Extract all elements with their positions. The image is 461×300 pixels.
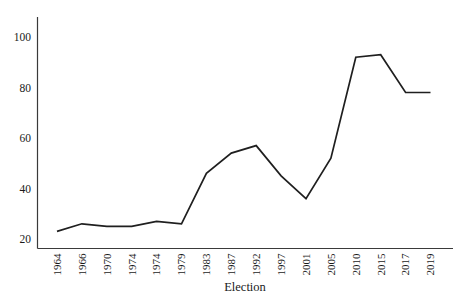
- x-tick-label: 1974: [150, 253, 162, 276]
- x-tick-label: 2017: [399, 253, 411, 276]
- y-tick-label: 20: [20, 233, 32, 245]
- x-tick-label: 2010: [350, 253, 362, 276]
- y-tick-label: 100: [14, 31, 32, 43]
- x-tick-label: 1979: [175, 253, 187, 276]
- x-tick-label: 1987: [225, 253, 237, 276]
- x-tick-label: 2019: [424, 253, 436, 276]
- x-tick-label: 1974: [126, 253, 138, 276]
- data-line: [57, 55, 431, 232]
- x-axis-title: Election: [224, 280, 266, 294]
- x-tick-label: 1970: [101, 253, 113, 276]
- line-chart: 20406080100 1964196619701974197419791983…: [0, 0, 461, 300]
- axes-layer: [38, 17, 454, 249]
- y-tick-label: 40: [20, 183, 32, 195]
- data-series-layer: [57, 55, 431, 232]
- y-tick-label: 60: [20, 132, 32, 144]
- x-tick-label: 2001: [300, 254, 312, 276]
- x-tick-label: 1966: [76, 253, 88, 276]
- x-tick-label: 1992: [250, 254, 262, 276]
- y-tick-labels: 20406080100: [14, 31, 32, 245]
- y-tick-label: 80: [20, 82, 32, 94]
- x-tick-labels: 1964196619701974197419791983198719921997…: [51, 253, 437, 276]
- x-tick-label: 2005: [325, 253, 337, 276]
- election-line-chart-svg: 20406080100 1964196619701974197419791983…: [0, 0, 461, 300]
- x-tick-label: 1997: [275, 253, 287, 276]
- x-tick-label: 2015: [375, 253, 387, 276]
- x-tick-label: 1964: [51, 253, 63, 276]
- x-tick-label: 1983: [200, 253, 212, 276]
